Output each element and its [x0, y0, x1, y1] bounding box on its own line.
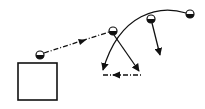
launch-arrowhead-icon	[78, 39, 86, 45]
return-arrowhead-icon	[112, 72, 120, 79]
diagram-canvas	[0, 0, 205, 109]
ball-1-icon	[36, 51, 44, 59]
motion-diagram: Motion paths of balls: dash-dot projecte…	[0, 0, 205, 109]
fall-path-ball-3	[152, 23, 160, 55]
dashdot-launch-path	[44, 32, 109, 53]
ball-4-icon	[186, 10, 194, 18]
curved-trajectory-path	[103, 10, 186, 70]
box-shape	[18, 63, 57, 100]
fall-path-ball-2	[114, 35, 139, 71]
ball-3-icon	[147, 15, 155, 23]
ball-2-icon	[109, 27, 117, 35]
